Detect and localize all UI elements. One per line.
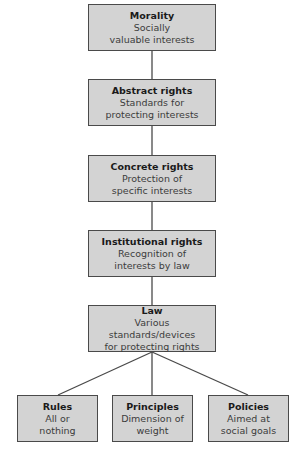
node-title: Institutional rights	[102, 236, 203, 248]
node-title: Law	[141, 305, 162, 317]
connector-law-policies	[152, 352, 248, 395]
node-title: Morality	[130, 10, 174, 22]
node-description: Aimed at social goals	[221, 413, 276, 437]
node-rules: Rules All or nothing	[17, 395, 98, 442]
node-institutional-rights: Institutional rights Recognition of inte…	[88, 230, 216, 277]
node-description: Recognition of interests by law	[114, 248, 189, 272]
node-description: Dimension of weight	[121, 413, 184, 437]
node-principles: Principles Dimension of weight	[112, 395, 193, 442]
node-description: Standards for protecting interests	[105, 97, 198, 121]
node-title: Abstract rights	[112, 85, 193, 97]
node-policies: Policies Aimed at social goals	[208, 395, 289, 442]
node-abstract-rights: Abstract rights Standards for protecting…	[88, 79, 216, 126]
node-description: Various standards/devices for protecting…	[91, 317, 213, 353]
node-title: Concrete rights	[110, 161, 193, 173]
node-title: Principles	[126, 401, 179, 413]
node-morality: Morality Socially valuable interests	[88, 4, 216, 51]
node-title: Rules	[43, 401, 72, 413]
node-concrete-rights: Concrete rights Protection of specific i…	[88, 155, 216, 202]
node-description: Protection of specific interests	[112, 173, 192, 197]
node-description: All or nothing	[39, 413, 75, 437]
connector-law-rules	[58, 352, 152, 395]
node-title: Policies	[228, 401, 269, 413]
node-law: Law Various standards/devices for protec…	[88, 305, 216, 352]
node-description: Socially valuable interests	[110, 22, 195, 46]
